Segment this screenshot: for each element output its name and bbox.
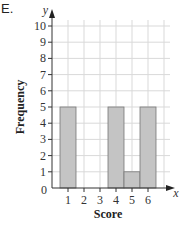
bar-score-6 bbox=[140, 107, 156, 188]
bar-score-4 bbox=[108, 107, 124, 188]
y-tick-label: 10 bbox=[34, 19, 46, 33]
histogram-chart: 123456789101234560yxScoreFrequency bbox=[0, 0, 183, 226]
y-axis-title: Frequency bbox=[13, 80, 27, 134]
bar-score-1 bbox=[60, 107, 76, 188]
y-axis-arrow-icon bbox=[49, 9, 55, 18]
y-tick-label: 3 bbox=[40, 132, 46, 146]
bar-score-5 bbox=[124, 172, 140, 188]
y-tick-label: 4 bbox=[40, 116, 46, 130]
x-tick-label: 2 bbox=[81, 193, 87, 207]
x-tick-label: 5 bbox=[129, 193, 135, 207]
x-tick-label: 1 bbox=[65, 193, 71, 207]
y-tick-label: 5 bbox=[40, 100, 46, 114]
origin-label: 0 bbox=[41, 183, 47, 197]
y-tick-label: 8 bbox=[40, 51, 46, 65]
x-tick-label: 6 bbox=[145, 193, 151, 207]
y-tick-label: 1 bbox=[40, 165, 46, 179]
x-tick-label: 3 bbox=[97, 193, 103, 207]
x-axis-title: Score bbox=[94, 207, 123, 221]
y-tick-label: 9 bbox=[40, 35, 46, 49]
x-tick-label: 4 bbox=[113, 193, 119, 207]
y-tick-label: 6 bbox=[40, 84, 46, 98]
x-axis-variable: x bbox=[172, 186, 179, 200]
y-axis-variable: y bbox=[42, 3, 49, 17]
y-tick-label: 7 bbox=[40, 68, 46, 82]
y-tick-label: 2 bbox=[40, 149, 46, 163]
